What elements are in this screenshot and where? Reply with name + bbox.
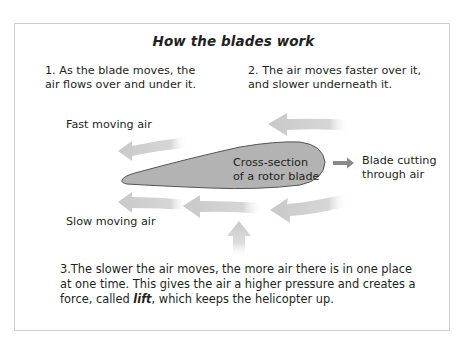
blade-cutting-label: Blade cutting through air	[362, 154, 437, 182]
step-1-text: 1. As the blade moves, the air flows ove…	[45, 64, 196, 92]
pressure-up-arrow-icon	[227, 221, 251, 257]
direction-arrow-icon	[333, 158, 354, 169]
step-3-line-3-post: , which keeps the helicopter up.	[152, 292, 334, 306]
diagram-title: How the blades work	[0, 33, 467, 49]
slow-air-arrow-left-icon	[118, 192, 188, 213]
airfoil-label-line-2: of a rotor blade	[233, 170, 319, 184]
step-3-line-1: 3.The slower the air moves, the more air…	[60, 262, 416, 277]
step-3-line-3-pre: force, called	[60, 292, 133, 306]
fast-air-arrow-right-icon	[268, 113, 350, 136]
fast-air-label: Fast moving air	[66, 118, 152, 132]
step-2-line-2: and slower underneath it.	[248, 78, 421, 92]
step-3-line-2: at one time. This gives the air a higher…	[60, 277, 416, 292]
step-2-text: 2. The air moves faster over it, and slo…	[248, 64, 421, 92]
step-3-text: 3.The slower the air moves, the more air…	[60, 262, 416, 307]
fast-air-arrow-left-icon	[118, 137, 188, 161]
slow-air-arrow-right-icon	[270, 193, 348, 223]
step-1-line-1: 1. As the blade moves, the	[45, 64, 196, 78]
blade-cutting-line-1: Blade cutting	[362, 154, 437, 168]
lift-term: lift	[133, 292, 151, 306]
step-2-line-1: 2. The air moves faster over it,	[248, 64, 421, 78]
blade-cutting-line-2: through air	[362, 168, 437, 182]
slow-air-arrow-middle-icon	[183, 195, 263, 218]
step-3-line-3: force, called lift, which keeps the heli…	[60, 292, 416, 307]
step-1-line-2: air flows over and under it.	[45, 78, 196, 92]
airfoil-label: Cross-section of a rotor blade	[233, 156, 319, 184]
slow-air-label: Slow moving air	[66, 215, 156, 229]
airfoil-label-line-1: Cross-section	[233, 156, 319, 170]
